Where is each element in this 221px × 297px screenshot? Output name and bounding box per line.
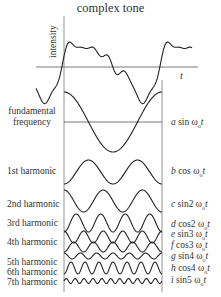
label-3rd-harmonic: 3rd harmonic — [7, 218, 58, 228]
complex-tone-wave — [36, 42, 192, 104]
formula-2nd-harmonic: c sin2 ωot — [171, 199, 208, 211]
formula-g: g sin4 ωot — [171, 251, 208, 263]
formula-1st-harmonic: b cos ωot — [171, 166, 205, 178]
harmonic-3-wave — [64, 214, 162, 232]
formula-h: h cos4 ωot — [171, 263, 210, 275]
label-1st-harmonic: 1st harmonic — [7, 166, 56, 176]
label-fundamental-line2: frequency — [4, 117, 60, 128]
harmonic-i-wave — [64, 279, 162, 284]
label-6th-harmonic: 6th harmonic — [7, 267, 57, 277]
harmonic-g-wave — [64, 253, 162, 259]
harmonic-1-wave — [64, 160, 162, 184]
label-4th-harmonic: 4th harmonic — [7, 237, 57, 247]
label-fundamental-line1: fundamental — [4, 106, 60, 117]
label-7th-harmonic: 7th harmonic — [7, 277, 57, 287]
formula-fundamental: a sin ωot — [171, 117, 203, 129]
label-5th-harmonic: 5th harmonic — [7, 257, 57, 267]
label-fundamental-frequency: fundamental frequency — [4, 106, 60, 128]
harmonic-2-wave — [64, 190, 162, 212]
formula-i: i sin5 ωot — [171, 275, 206, 287]
label-2nd-harmonic: 2nd harmonic — [7, 199, 60, 209]
harmonic-h-wave — [64, 262, 162, 274]
harmonic-e-wave — [64, 231, 162, 243]
